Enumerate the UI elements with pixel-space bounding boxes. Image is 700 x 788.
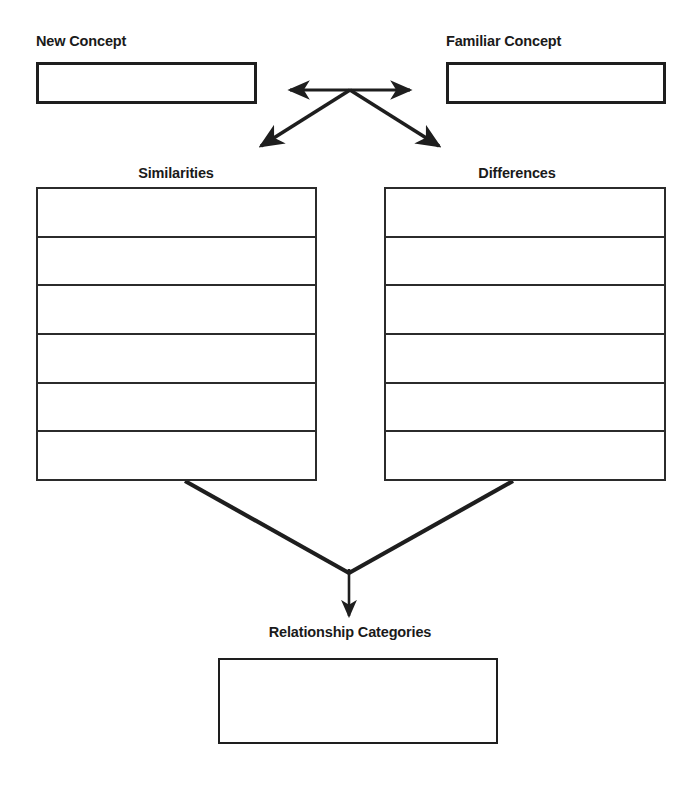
table-row[interactable] bbox=[38, 335, 315, 384]
similarities-table[interactable] bbox=[36, 187, 317, 481]
table-row[interactable] bbox=[386, 189, 664, 238]
relationship-categories-field[interactable] bbox=[218, 658, 498, 744]
new-concept-field[interactable] bbox=[36, 62, 257, 104]
familiar-concept-label: Familiar Concept bbox=[446, 34, 561, 49]
table-row[interactable] bbox=[38, 189, 315, 238]
new-concept-label: New Concept bbox=[36, 34, 126, 49]
table-row[interactable] bbox=[38, 384, 315, 433]
table-row[interactable] bbox=[386, 286, 664, 335]
down-left-arrow bbox=[261, 90, 350, 146]
table-row[interactable] bbox=[386, 238, 664, 287]
table-row[interactable] bbox=[38, 238, 315, 287]
differences-converge-line bbox=[349, 481, 513, 573]
table-row[interactable] bbox=[386, 384, 664, 433]
worksheet-canvas: New Concept Familiar Concept Similaritie… bbox=[0, 0, 700, 788]
differences-table[interactable] bbox=[384, 187, 666, 481]
table-row[interactable] bbox=[386, 335, 664, 384]
relationship-categories-label: Relationship Categories bbox=[269, 625, 432, 640]
differences-label: Differences bbox=[478, 166, 555, 181]
familiar-concept-field[interactable] bbox=[446, 62, 666, 104]
similarities-label: Similarities bbox=[138, 166, 214, 181]
down-right-arrow bbox=[350, 90, 439, 146]
table-row[interactable] bbox=[386, 432, 664, 479]
similarities-converge-line bbox=[185, 481, 349, 573]
table-row[interactable] bbox=[38, 432, 315, 479]
table-row[interactable] bbox=[38, 286, 315, 335]
